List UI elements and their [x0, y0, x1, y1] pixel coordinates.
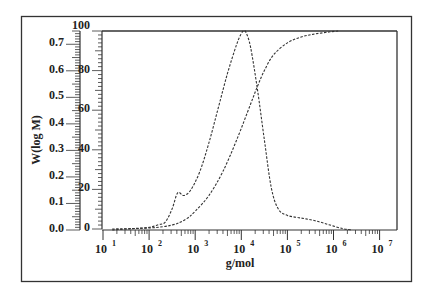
right-y-tick-label: 20 — [78, 180, 90, 194]
x-tick-label: 10 — [279, 242, 291, 256]
x-axis: 101102103104105106107 — [95, 230, 397, 256]
left-y-tick-label: 0.7 — [49, 35, 64, 49]
x-tick-exponent: 3 — [204, 239, 208, 248]
x-tick-label: 10 — [95, 242, 107, 256]
x-tick-label: 10 — [233, 242, 245, 256]
left-y-tick-label: 0.1 — [49, 194, 64, 208]
x-tick-exponent: 6 — [343, 239, 347, 248]
left-y-axis: 0.00.10.20.30.40.50.60.7 — [49, 31, 80, 235]
right-y-axis: 020406080100 — [72, 18, 102, 234]
right-y-tick-label: 0 — [84, 220, 90, 234]
x-tick-label: 10 — [141, 242, 153, 256]
right-y-tick-label: 100 — [72, 18, 90, 32]
left-y-tick-label: 0.5 — [49, 88, 64, 102]
left-y-tick-label: 0.0 — [49, 221, 64, 235]
left-y-tick-label: 0.2 — [49, 168, 64, 182]
x-tick-label: 10 — [372, 242, 384, 256]
left-y-axis-title: W(log M) — [29, 115, 43, 165]
x-tick-label: 10 — [326, 242, 338, 256]
right-y-tick-label: 40 — [78, 141, 90, 155]
gpc-molecular-weight-chart: 0.00.10.20.30.40.50.60.7 020406080100 10… — [0, 0, 431, 295]
x-tick-exponent: 4 — [250, 239, 254, 248]
x-tick-exponent: 1 — [112, 239, 116, 248]
differential-distribution-curve — [112, 31, 352, 230]
series-layer — [112, 31, 352, 230]
left-y-tick-label: 0.6 — [49, 62, 64, 76]
x-tick-exponent: 2 — [158, 239, 162, 248]
cumulative-distribution-curve — [112, 31, 338, 229]
left-y-tick-label: 0.3 — [49, 141, 64, 155]
right-y-tick-label: 80 — [78, 62, 90, 76]
plot-area — [102, 31, 397, 230]
x-tick-exponent: 7 — [389, 239, 393, 248]
left-y-tick-label: 0.4 — [49, 115, 64, 129]
x-axis-title: g/mol — [226, 256, 255, 270]
right-y-tick-label: 60 — [78, 101, 90, 115]
x-tick-label: 10 — [187, 242, 199, 256]
x-tick-exponent: 5 — [296, 239, 300, 248]
